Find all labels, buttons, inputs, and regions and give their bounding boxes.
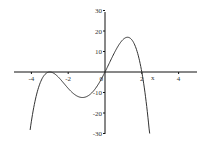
chart: -4-2024 302010-10-20-30 x xyxy=(0,0,206,145)
curve-series xyxy=(30,37,150,133)
y-tick-label: 10 xyxy=(95,48,103,56)
x-tick-label: -4 xyxy=(28,75,34,83)
x-axis-label: x xyxy=(151,74,155,82)
y-tick-label: 30 xyxy=(95,7,103,15)
y-tick-label: -30 xyxy=(93,130,103,138)
x-tick-label: -2 xyxy=(65,75,71,83)
x-tick-label: 4 xyxy=(177,75,181,83)
y-tick-label: 20 xyxy=(95,28,103,36)
y-tick-label: -20 xyxy=(93,110,103,118)
